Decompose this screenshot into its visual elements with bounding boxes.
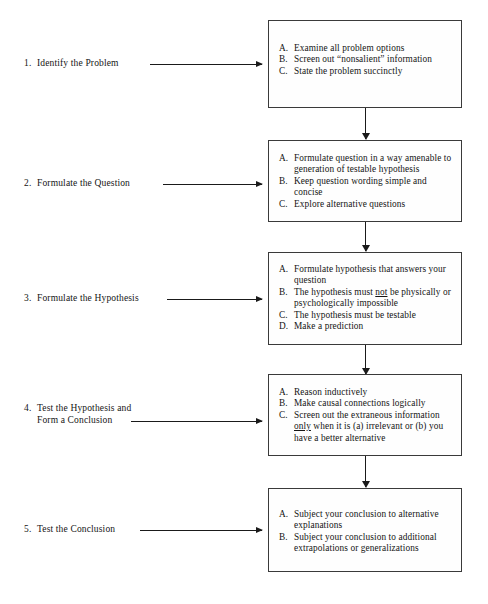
connector-box2-to-box3: [365, 222, 366, 251]
step-title-4: Test the Hypothesis and: [37, 403, 131, 413]
step-box-5: A.Subject your conclusion to alternative…: [268, 488, 462, 572]
list-item: D.Make a prediction: [279, 321, 453, 332]
step-title-1: Identify the Problem: [37, 58, 119, 68]
step-label-4: 4.Test the Hypothesis and Form a Conclus…: [24, 402, 131, 426]
item-text-pre: The hypothesis must: [294, 287, 375, 297]
step-title-4-line2: Form a Conclusion: [24, 414, 131, 426]
item-text: Formulate question in a way amenable to …: [294, 153, 451, 174]
item-marker: A.: [279, 509, 288, 520]
list-item: A.Formulate question in a way amenable t…: [279, 153, 453, 176]
list-item: A.Reason inductively: [279, 387, 453, 398]
item-marker: B.: [279, 398, 288, 409]
arrow-label-to-box-3: [167, 299, 262, 300]
item-marker: B.: [279, 54, 288, 65]
item-text: Screen out “nonsalient” information: [294, 54, 432, 64]
step-label-1: 1.Identify the Problem: [24, 57, 119, 69]
list-item: C.State the problem succinctly: [279, 66, 453, 77]
item-text: Subject your conclusion to alternative e…: [294, 509, 439, 530]
list-item: A.Formulate hypothesis that answers your…: [279, 264, 453, 287]
item-marker: C.: [279, 66, 288, 77]
step-title-2: Formulate the Question: [37, 178, 130, 188]
item-text: Explore alternative questions: [294, 199, 405, 209]
item-text-post: when it is (a) irrelevant or (b) you hav…: [294, 421, 443, 442]
list-item: B.Make causal connections logically: [279, 398, 453, 409]
step-items-3: A.Formulate hypothesis that answers your…: [279, 259, 453, 327]
step-box-4: A.Reason inductively B.Make causal conne…: [268, 374, 462, 456]
step-label-2: 2.Formulate the Question: [24, 177, 130, 189]
step-items-5: A.Subject your conclusion to alternative…: [279, 495, 453, 541]
arrow-label-to-box-2: [163, 184, 262, 185]
step-box-2: A.Formulate question in a way amenable t…: [268, 140, 462, 222]
list-item: B.The hypothesis must not be physically …: [279, 287, 453, 310]
arrow-label-to-box-1: [150, 64, 262, 65]
list-item: A.Examine all problem options: [279, 43, 453, 54]
step-label-3: 3.Formulate the Hypothesis: [24, 292, 139, 304]
list-item: A.Subject your conclusion to alternative…: [279, 509, 453, 532]
item-marker: B.: [279, 176, 288, 187]
item-text: Make causal connections logically: [294, 398, 426, 408]
item-text-pre: Screen out the extraneous information: [294, 410, 440, 420]
item-text-emphasis: not: [375, 287, 387, 297]
item-text: Reason inductively: [294, 387, 367, 397]
list-item: C.The hypothesis must be testable: [279, 310, 453, 321]
step-number-4: 4.: [24, 402, 37, 414]
step-box-3: A.Formulate hypothesis that answers your…: [268, 252, 462, 345]
list-item: B.Subject your conclusion to additional …: [279, 532, 453, 555]
item-marker: B.: [279, 532, 288, 543]
step-title-5: Test the Conclusion: [37, 524, 115, 534]
item-text: Examine all problem options: [294, 43, 404, 53]
item-marker: C.: [279, 410, 288, 421]
item-text: Subject your conclusion to additional ex…: [294, 532, 437, 553]
step-items-2: A.Formulate question in a way amenable t…: [279, 147, 453, 204]
step-items-1: A.Examine all problem options B.Screen o…: [279, 27, 453, 61]
list-item: B.Keep question wording simple and conci…: [279, 176, 453, 199]
connector-box4-to-box5: [365, 456, 366, 487]
item-text: The hypothesis must be testable: [294, 310, 416, 320]
item-marker: A.: [279, 153, 288, 164]
item-marker: A.: [279, 264, 288, 275]
step-label-5: 5.Test the Conclusion: [24, 523, 115, 535]
item-text: Make a prediction: [294, 321, 363, 331]
arrow-label-to-box-5: [140, 530, 262, 531]
step-items-4: A.Reason inductively B.Make causal conne…: [279, 381, 453, 438]
item-marker: A.: [279, 43, 288, 54]
item-text: Keep question wording simple and concise: [294, 176, 427, 197]
list-item: B.Screen out “nonsalient” information: [279, 54, 453, 65]
item-text-emphasis: only: [294, 421, 311, 431]
arrow-label-to-box-4: [131, 421, 262, 422]
step-number-3: 3.: [24, 292, 37, 304]
step-number-5: 5.: [24, 523, 37, 535]
item-text: Formulate hypothesis that answers your q…: [294, 264, 446, 285]
step-number-1: 1.: [24, 57, 37, 69]
item-marker: C.: [279, 310, 288, 321]
item-marker: C.: [279, 199, 288, 210]
step-title-3: Formulate the Hypothesis: [37, 293, 139, 303]
list-item: C.Explore alternative questions: [279, 199, 453, 210]
item-text: State the problem succinctly: [294, 66, 402, 76]
connector-box3-to-box4: [365, 345, 366, 374]
flowchart-diagram: 1.Identify the Problem A.Examine all pro…: [0, 0, 488, 604]
step-box-1: A.Examine all problem options B.Screen o…: [268, 20, 462, 108]
item-marker: A.: [279, 387, 288, 398]
item-marker: B.: [279, 287, 288, 298]
item-marker: D.: [279, 321, 288, 332]
step-number-2: 2.: [24, 177, 37, 189]
list-item: C.Screen out the extraneous information …: [279, 410, 453, 444]
connector-box1-to-box2: [365, 108, 366, 139]
